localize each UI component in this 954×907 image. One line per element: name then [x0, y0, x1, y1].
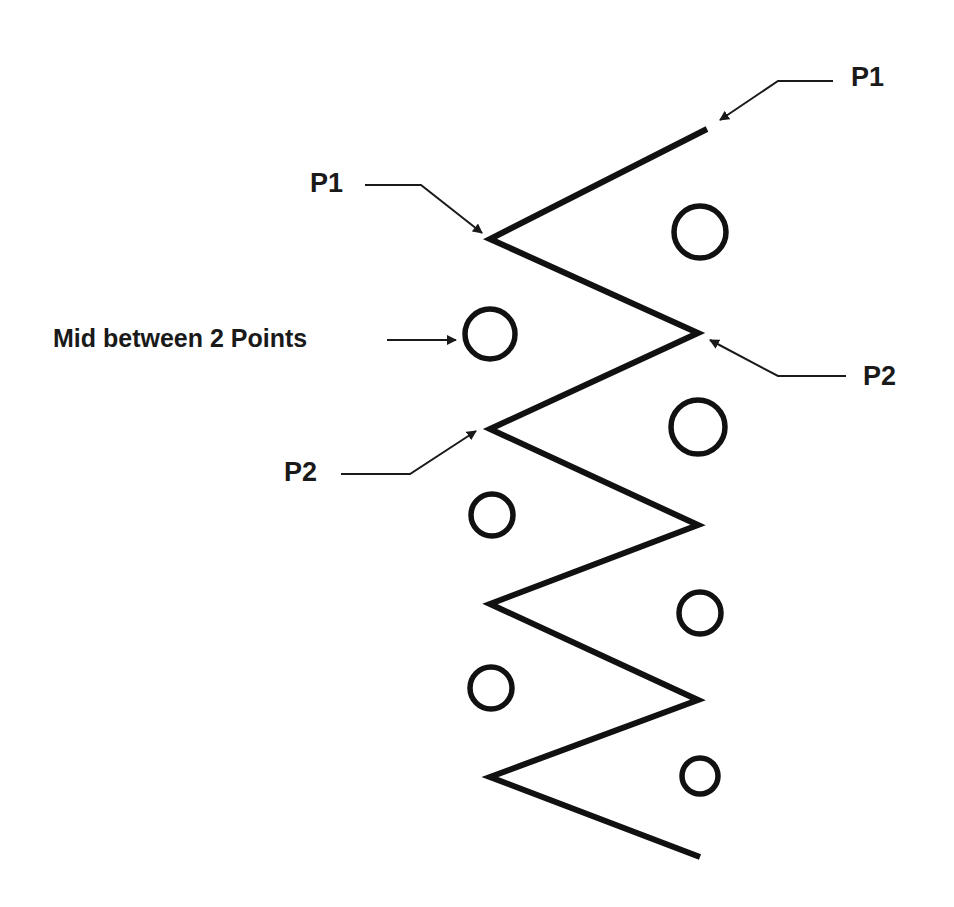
arrow-p1-top-right — [720, 81, 833, 120]
midpoint-circle — [471, 494, 513, 536]
midpoint-circle — [470, 667, 512, 709]
label-p2-right: P2 — [863, 363, 896, 390]
zigzag-diagram — [0, 0, 954, 907]
arrow-p2-right — [710, 340, 846, 376]
midpoint-circle — [682, 758, 718, 794]
label-p2-left: P2 — [284, 459, 317, 486]
midpoint-circle — [465, 309, 515, 359]
midpoint-circle — [679, 592, 721, 634]
label-p1-left: P1 — [310, 170, 343, 197]
midpoint-circle — [674, 206, 726, 258]
label-p1-top-right: P1 — [851, 64, 884, 91]
label-mid-between-points: Mid between 2 Points — [53, 326, 307, 351]
arrow-p1-left — [365, 185, 482, 233]
arrow-p2-left — [341, 431, 476, 474]
midpoint-circle — [671, 400, 725, 454]
